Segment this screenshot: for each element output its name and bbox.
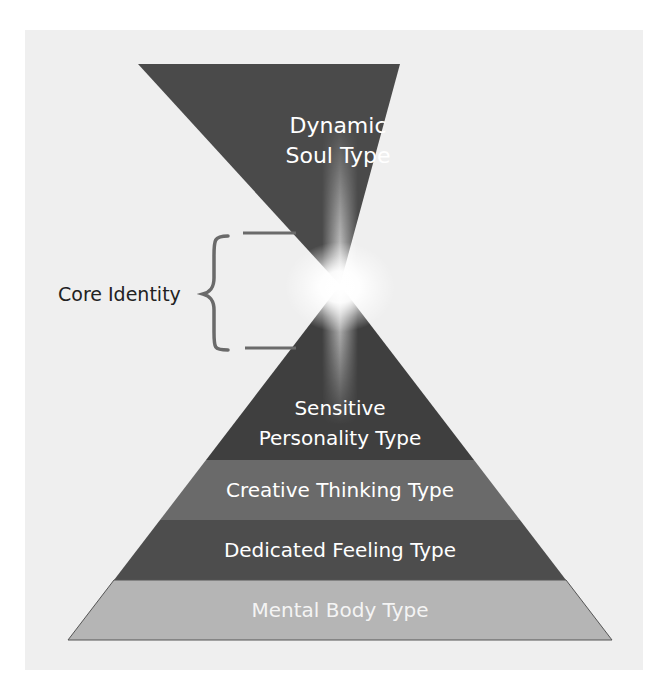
mental-body-label: Mental Body Type xyxy=(251,598,428,622)
hourglass-diagram: Dynamic Soul Type Core Identity Sensitiv… xyxy=(0,0,671,693)
sensitive-personality-label-line2: Personality Type xyxy=(259,426,422,450)
dynamic-soul-label-line1: Dynamic xyxy=(289,113,386,138)
dedicated-feeling-label: Dedicated Feeling Type xyxy=(224,538,456,562)
core-glow xyxy=(285,242,395,332)
sensitive-personality-label-line1: Sensitive xyxy=(294,396,385,420)
dynamic-soul-label-line2: Soul Type xyxy=(285,143,390,168)
core-identity-label: Core Identity xyxy=(58,283,181,305)
creative-thinking-label: Creative Thinking Type xyxy=(226,478,454,502)
